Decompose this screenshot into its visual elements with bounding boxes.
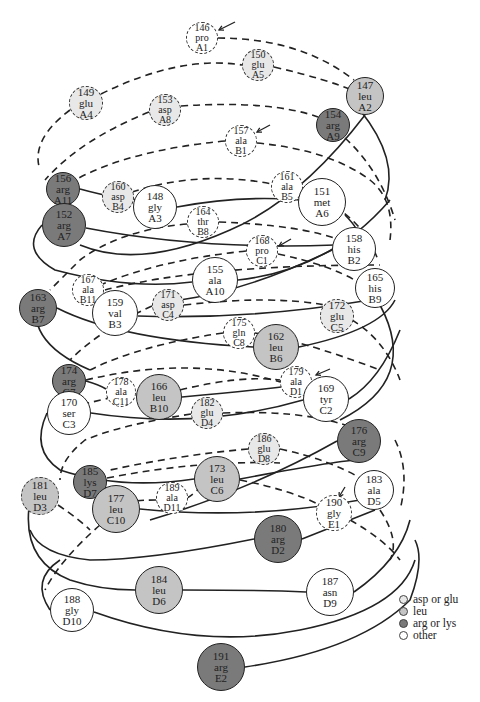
residue-pos: B9 bbox=[369, 294, 382, 305]
residue-node: 182gluD4 bbox=[191, 397, 223, 429]
residue-aa: lys bbox=[84, 477, 97, 488]
residue-node: 183alaD5 bbox=[354, 470, 394, 510]
residue-pos: C9 bbox=[353, 447, 366, 458]
residue-aa: his bbox=[369, 283, 382, 294]
residue-num: 180 bbox=[270, 523, 287, 534]
residue-aa: arg bbox=[31, 303, 45, 314]
residue-pos: C2 bbox=[320, 405, 333, 416]
residue-num: 152 bbox=[56, 209, 73, 220]
residue-aa: arg bbox=[271, 534, 285, 545]
residue-node: 164thrB8 bbox=[187, 206, 219, 238]
residue-node: 191argE2 bbox=[197, 643, 245, 691]
residue-node: 157alaB1 bbox=[225, 125, 257, 157]
residue-pos: C3 bbox=[63, 419, 76, 430]
residue-pos: D11 bbox=[164, 503, 181, 513]
residue-aa: leu bbox=[33, 491, 46, 502]
residue-pos: A5 bbox=[252, 70, 264, 80]
residue-num: 165 bbox=[367, 272, 384, 283]
residue-node: 180argD2 bbox=[254, 515, 302, 563]
residue-node: 190glyE1 bbox=[316, 495, 352, 531]
residue-pos: D2 bbox=[271, 545, 284, 556]
residue-aa: leu bbox=[152, 392, 165, 403]
residue-aa: ala bbox=[368, 485, 381, 496]
residue-pos: A10 bbox=[206, 286, 225, 297]
residue-node: 163argB7 bbox=[19, 289, 57, 327]
residue-pos: B7 bbox=[32, 314, 45, 325]
residue-pos: B10 bbox=[150, 403, 168, 414]
residue-node: 186gluD8 bbox=[248, 433, 280, 465]
legend-label: asp or glu bbox=[413, 593, 458, 605]
residue-pos: D10 bbox=[63, 616, 82, 627]
residue-pos: A3 bbox=[148, 213, 161, 224]
residue-num: 176 bbox=[351, 425, 368, 436]
arrow-icon bbox=[257, 125, 270, 132]
residue-aa: arg bbox=[214, 662, 228, 673]
legend-label: arg or lys bbox=[413, 617, 456, 629]
residue-pos: A2 bbox=[358, 102, 371, 113]
residue-aa: arg bbox=[56, 184, 70, 195]
legend-swatch-other bbox=[399, 631, 408, 640]
residue-num: 155 bbox=[207, 264, 224, 275]
arrow-icon bbox=[219, 22, 235, 30]
residue-num: 151 bbox=[314, 186, 331, 197]
residue-pos: E1 bbox=[328, 519, 340, 530]
residue-node: 187asnD9 bbox=[306, 568, 354, 616]
residue-node: 162leuB6 bbox=[253, 324, 299, 370]
residue-pos: C11 bbox=[113, 397, 129, 407]
residue-node: 146proA1 bbox=[186, 22, 218, 54]
residue-num: 181 bbox=[32, 480, 49, 491]
arrow-icon bbox=[316, 369, 330, 375]
residue-aa: ser bbox=[63, 408, 76, 419]
residue-num: 170 bbox=[61, 397, 78, 408]
residue-num: 187 bbox=[322, 576, 339, 587]
residue-num: 156 bbox=[55, 173, 72, 184]
residue-pos: D6 bbox=[152, 596, 165, 607]
residue-pos: B1 bbox=[235, 146, 247, 156]
residue-aa: leu bbox=[269, 342, 282, 353]
residue-aa: asn bbox=[323, 587, 338, 598]
residue-num: 177 bbox=[108, 493, 125, 504]
residue-node: 155alaA10 bbox=[192, 257, 238, 303]
residue-node: 147leuA2 bbox=[346, 77, 384, 115]
residue-node: 158hisB2 bbox=[332, 227, 376, 271]
residue-node: 166leuB10 bbox=[136, 374, 182, 420]
residue-aa: arg bbox=[62, 376, 76, 387]
residue-aa: ala bbox=[209, 275, 222, 286]
residue-pos: A1 bbox=[196, 43, 208, 53]
residue-pos: B3 bbox=[109, 319, 122, 330]
residue-node: 154argA9 bbox=[316, 108, 350, 142]
residue-aa: his bbox=[348, 244, 361, 255]
residue-pos: C10 bbox=[107, 515, 125, 526]
residue-pos: C6 bbox=[211, 485, 224, 496]
residue-num: 159 bbox=[107, 297, 124, 308]
residue-pos: A6 bbox=[315, 208, 328, 219]
residue-aa: arg bbox=[326, 120, 340, 131]
residue-num: 154 bbox=[325, 109, 342, 120]
residue-num: 147 bbox=[357, 80, 374, 91]
residue-node: 149gluA4 bbox=[69, 86, 103, 120]
residue-node: 172gluC5 bbox=[320, 299, 354, 333]
residue-pos: A4 bbox=[79, 109, 92, 120]
residue-num: 188 bbox=[64, 594, 81, 605]
residue-pos: A9 bbox=[326, 131, 339, 142]
arrow-group bbox=[219, 22, 345, 497]
residue-aa: leu bbox=[210, 474, 223, 485]
residue-node: 153aspA8 bbox=[149, 94, 181, 126]
residue-aa: arg bbox=[352, 436, 366, 447]
residue-num: 162 bbox=[268, 331, 285, 342]
residue-num: 185 bbox=[82, 466, 99, 477]
residue-num: 172 bbox=[329, 300, 346, 311]
residue-aa: glu bbox=[79, 98, 93, 109]
residue-aa: leu bbox=[358, 91, 371, 102]
residue-node: 177leuC10 bbox=[92, 485, 140, 533]
residue-num: 148 bbox=[147, 191, 164, 202]
legend-item-arg-lys: arg or lys bbox=[399, 617, 458, 629]
residue-node: 188glyD10 bbox=[50, 588, 94, 632]
residue-node: 184leuD6 bbox=[135, 566, 183, 614]
residue-num: 184 bbox=[151, 574, 168, 585]
legend-swatch-arg-lys bbox=[399, 619, 408, 628]
residue-pos: D9 bbox=[323, 598, 336, 609]
residue-pos: D8 bbox=[258, 454, 270, 464]
residue-num: 149 bbox=[78, 87, 95, 98]
residue-node: 159valB3 bbox=[92, 290, 138, 336]
